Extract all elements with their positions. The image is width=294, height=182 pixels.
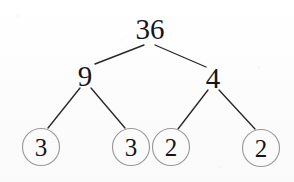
node-label-leaf-3: 2 — [165, 134, 178, 161]
edge-root-to-4 — [155, 45, 206, 67]
node-label-left-branch: 9 — [78, 60, 93, 92]
node-label-leaf-1: 3 — [35, 134, 48, 161]
edge-root-to-9 — [95, 45, 144, 64]
edge-9-to-leaf2 — [91, 88, 125, 128]
factor-tree-diagram: 36 9 4 3 3 2 2 — [0, 0, 294, 182]
node-label-leaf-2: 3 — [125, 134, 138, 161]
edge-9-to-leaf1 — [48, 88, 80, 128]
leaf-circles — [23, 129, 280, 167]
node-label-root: 36 — [136, 13, 165, 45]
node-label-leaf-4: 2 — [255, 135, 268, 162]
edge-4-to-leaf4 — [219, 90, 255, 129]
factor-tree-canvas: 36 9 4 3 3 2 2 — [0, 0, 294, 182]
edge-4-to-leaf3 — [178, 90, 208, 129]
node-label-right-branch: 4 — [206, 62, 221, 94]
node-labels: 36 9 4 3 3 2 2 — [35, 13, 268, 162]
